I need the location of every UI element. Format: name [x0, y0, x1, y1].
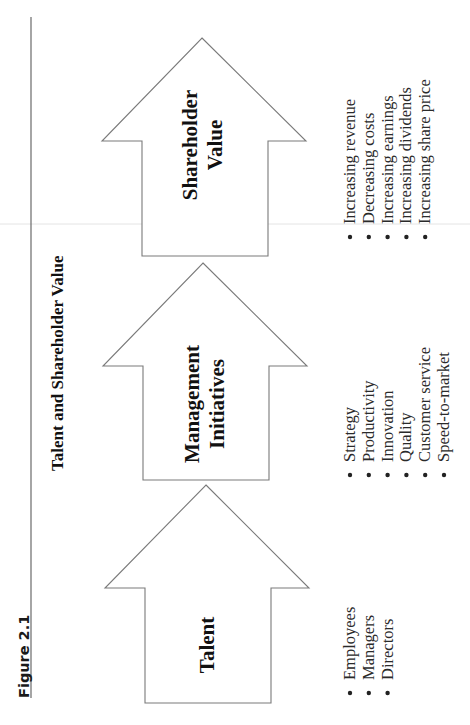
bullet-list-talent: Employees Managers Directors: [340, 607, 397, 696]
figure-canvas: Figure 2.1 Talent and Shareholder Value …: [0, 0, 470, 725]
arrow-label-shareholder-line2: Value: [203, 120, 227, 171]
arrow-label-shareholder-line1: Shareholder: [178, 90, 202, 200]
list-item: Directors: [378, 619, 397, 680]
list-item: Increasing share price: [415, 79, 434, 224]
bullet-icon: [404, 235, 408, 239]
bullet-icon: [348, 691, 352, 695]
list-item: Employees: [340, 607, 359, 680]
arrow-label-management-line1: Management: [180, 345, 204, 463]
bullet-icon: [404, 473, 408, 477]
bullet-icon: [348, 235, 352, 239]
arrow-talent: Talent: [105, 485, 309, 703]
list-item: Quality: [396, 412, 415, 462]
list-item: Decreasing costs: [359, 113, 378, 224]
arrow-label-talent: Talent: [195, 617, 219, 673]
list-item: Speed-to-market: [434, 352, 453, 462]
bullet-icon: [367, 235, 371, 239]
diagram-title: Talent and Shareholder Value: [48, 255, 67, 471]
bullet-icon: [423, 473, 427, 477]
list-item: Managers: [359, 615, 378, 680]
bullet-icon: [385, 691, 389, 695]
bullet-list-shareholder-value: Increasing revenue Decreasing costs Incr…: [340, 79, 434, 239]
list-item: Increasing revenue: [340, 99, 359, 224]
bullet-list-management-initiatives: Strategy Productivity Innovation Quality…: [340, 347, 453, 477]
bullet-icon: [442, 473, 446, 477]
bullet-icon: [385, 473, 389, 477]
arrow-shareholder-value: Shareholder Value: [102, 38, 306, 256]
bullet-icon: [385, 235, 389, 239]
list-item: Customer service: [415, 347, 434, 462]
bullet-icon: [367, 691, 371, 695]
list-item: Innovation: [378, 391, 397, 463]
list-item: Strategy: [340, 406, 359, 462]
list-item: Productivity: [359, 380, 378, 462]
arrow-label-management-line2: Initiatives: [205, 359, 229, 449]
arrow-management-initiatives: Management Initiatives: [103, 263, 307, 480]
bullet-icon: [367, 473, 371, 477]
list-item: Increasing dividends: [396, 87, 415, 224]
bullet-icon: [348, 473, 352, 477]
bullet-icon: [423, 235, 427, 239]
figure-label: Figure 2.1: [16, 615, 32, 698]
list-item: Increasing earnings: [378, 95, 397, 224]
